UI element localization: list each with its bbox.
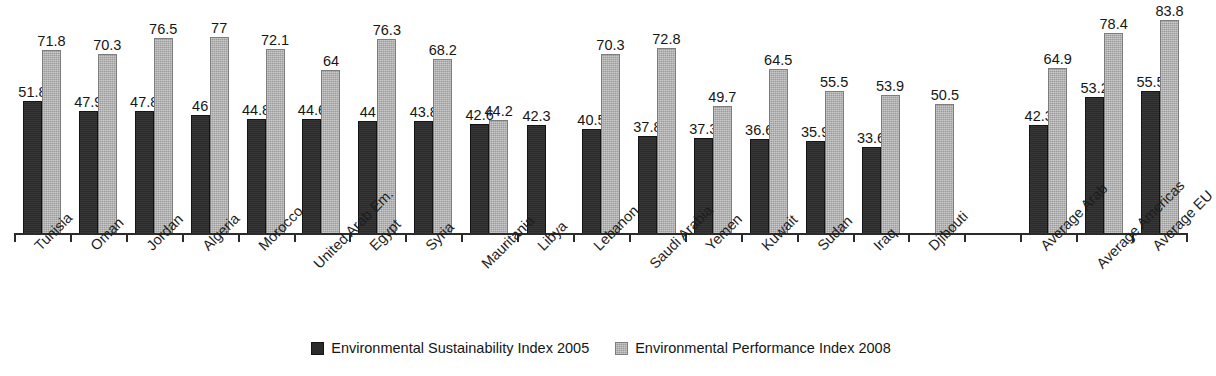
bar-group: 40.570.3: [573, 6, 629, 234]
bar-pair: 37.872.8: [629, 6, 685, 234]
bar-group: 44.664: [294, 6, 350, 234]
bar-pair: 50.5: [908, 6, 964, 234]
bar-pair: 42.3: [517, 6, 573, 234]
bar-value-label: 83.8: [1155, 4, 1183, 19]
bar-value-label: 76.3: [373, 23, 401, 38]
bar-group: 42.364.9: [1020, 6, 1076, 234]
bar-value-label: 70.3: [93, 38, 121, 53]
bar-epi-2008: 78.4: [1104, 33, 1123, 234]
bar-epi-2008: 53.9: [881, 95, 900, 234]
bar-epi-2008: 72.8: [657, 48, 676, 234]
bar-value-label: 78.4: [1100, 17, 1128, 32]
bar-esi-2005: 44.8: [247, 119, 266, 234]
bar-pair: 4677: [182, 6, 238, 234]
bar-group: 36.664.5: [741, 6, 797, 234]
bar-value-label: 49.7: [708, 90, 736, 105]
plot-area: 51.871.847.970.347.876.5467744.872.144.6…: [14, 6, 1188, 234]
bar-pair: 42.364.9: [1020, 6, 1076, 234]
axis-tick: [126, 233, 128, 242]
bar-epi-2008: 70.3: [601, 54, 620, 234]
bar-value-label: 50.5: [931, 88, 959, 103]
bar-pair: 43.868.2: [405, 6, 461, 234]
axis-tick: [853, 233, 855, 242]
legend-label: Environmental Performance Index 2008: [635, 340, 891, 356]
bar-pair: 47.970.3: [70, 6, 126, 234]
axis-tick: [1186, 233, 1188, 242]
bar-esi-2005: 37.8: [638, 136, 657, 234]
axis-tick: [573, 233, 575, 242]
axis-tick: [238, 233, 240, 242]
bar-pair: [964, 6, 1020, 234]
bar-epi-2008: 64.9: [1048, 68, 1067, 234]
bar-group: 42.3: [517, 6, 573, 234]
bar-pair: 44.872.1: [238, 6, 294, 234]
bar-value-label: 53.9: [876, 79, 904, 94]
bar-value-label: 71.8: [37, 34, 65, 49]
bar-value-label: 64.9: [1044, 52, 1072, 67]
bar-value-label: 70.3: [596, 38, 624, 53]
bar-value-label: 76.5: [149, 22, 177, 37]
bar-epi-2008: 64.5: [769, 69, 788, 234]
axis-tick: [405, 233, 407, 242]
bar-value-label: 44: [360, 105, 376, 120]
bar-value-label: 72.8: [652, 32, 680, 47]
bar-esi-2005: 47.8: [135, 111, 154, 234]
axis-tick: [797, 233, 799, 242]
axis-tick: [70, 233, 72, 242]
axis-tick: [294, 233, 296, 242]
axis-tick: [964, 233, 966, 242]
legend-swatch-epi-icon: [615, 342, 628, 355]
bar-esi-2005: 42.3: [1029, 125, 1048, 234]
bar-epi-2008: 76.5: [154, 38, 173, 234]
bar-esi-2005: 33.6: [862, 147, 881, 234]
legend-item: Environmental Sustainability Index 2005: [311, 340, 589, 356]
bar-pair: 33.653.9: [853, 6, 909, 234]
legend-swatch-esi-icon: [311, 342, 324, 355]
bar-value-label: 46: [192, 99, 208, 114]
legend-item: Environmental Performance Index 2008: [615, 340, 891, 356]
bar-epi-2008: 77: [210, 37, 229, 234]
bar-esi-2005: 43.8: [414, 121, 433, 234]
bar-group: 50.5: [908, 6, 964, 234]
axis-tick: [1076, 233, 1078, 242]
bar-value-label: 64.5: [764, 53, 792, 68]
bar-pair: 37.349.7: [685, 6, 741, 234]
axis-tick: [182, 233, 184, 242]
bar-esi-2005: 40.5: [582, 129, 601, 234]
axis-tick: [629, 233, 631, 242]
bar-group: 43.868.2: [405, 6, 461, 234]
axis-tick: [908, 233, 910, 242]
axis-tick: [1020, 233, 1022, 242]
bar-value-label: 44.2: [485, 104, 513, 119]
bar-epi-2008: 72.1: [266, 49, 285, 234]
bar-group: 51.871.8: [14, 6, 70, 234]
bar-pair: 51.871.8: [14, 6, 70, 234]
bar-value-label: 68.2: [429, 43, 457, 58]
bar-esi-2005: 42.6: [470, 124, 489, 234]
bar-group: [964, 6, 1020, 234]
bar-epi-2008: 64: [321, 70, 340, 234]
bar-epi-2008: 70.3: [98, 54, 117, 234]
bar-epi-2008: 44.2: [489, 120, 508, 234]
bar-value-label: 42.3: [522, 109, 550, 124]
bar-esi-2005: 46: [191, 115, 210, 234]
bar-epi-2008: 71.8: [42, 50, 61, 234]
x-axis-category-labels: TunisiaOmanJordanAlgeriaMoroccoUnited Ar…: [14, 243, 1188, 323]
bar-pair: 42.644.2: [461, 6, 517, 234]
bar-pair: 35.955.5: [797, 6, 853, 234]
bar-value-label: 72.1: [261, 33, 289, 48]
bar-value-label: 64: [323, 54, 339, 69]
bar-pair: 40.570.3: [573, 6, 629, 234]
bar-group: 47.876.5: [126, 6, 182, 234]
bar-group: 37.349.7: [685, 6, 741, 234]
bar-value-label: 55.5: [820, 75, 848, 90]
bar-group: 47.970.3: [70, 6, 126, 234]
axis-tick: [741, 233, 743, 242]
bar-epi-2008: 68.2: [433, 59, 452, 234]
bar-epi-2008: 55.5: [825, 91, 844, 234]
bar-esi-2005: 47.9: [79, 111, 98, 234]
bar-esi-2005: 44.6: [302, 119, 321, 234]
bar-group: 33.653.9: [853, 6, 909, 234]
legend-label: Environmental Sustainability Index 2005: [331, 340, 589, 356]
